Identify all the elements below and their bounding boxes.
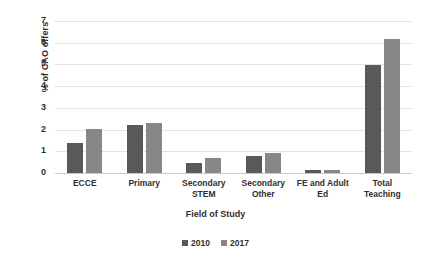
x-tick-label-line: Total (353, 178, 413, 189)
legend-entry-2017[interactable]: 2017 (221, 238, 249, 248)
chart-legend: 20102017 (0, 238, 431, 248)
x-tick-label-line: Other (234, 189, 294, 200)
x-tick-label-line: Secondary (174, 178, 234, 189)
plot-area (55, 21, 412, 173)
y-tick-label-6: 6 (28, 37, 46, 47)
bar-pair (353, 21, 413, 173)
bar-group (55, 21, 115, 173)
y-tick-label-3: 3 (28, 102, 46, 112)
legend-swatch-icon (182, 240, 188, 246)
bar-2017 (146, 123, 162, 173)
bar-group (293, 21, 353, 173)
y-tick-label-5: 5 (28, 58, 46, 68)
bar-pair (293, 21, 353, 173)
bar-group (353, 21, 413, 173)
x-tick-label-fe-and-adult-ed: FE and AdultEd (293, 178, 353, 200)
bar-group (234, 21, 294, 173)
x-tick-label-line: Ed (293, 189, 353, 200)
x-tick-label-secondary-other: SecondaryOther (234, 178, 294, 200)
bar-group (174, 21, 234, 173)
legend-entry-2010[interactable]: 2010 (182, 238, 210, 248)
x-tick-label-line: Teaching (353, 189, 413, 200)
bar-chart: % of CAO offers 01234567 ECCEPrimarySeco… (0, 0, 431, 279)
bar-2017 (205, 158, 221, 173)
bar-pair (55, 21, 115, 173)
bar-2010 (305, 170, 321, 173)
bar-2010 (186, 163, 202, 173)
x-tick-label-line: STEM (174, 189, 234, 200)
bar-2017 (324, 170, 340, 173)
x-tick-label-ecce: ECCE (55, 178, 115, 189)
bar-pair (234, 21, 294, 173)
bar-2017 (265, 153, 281, 173)
x-tick-label-line: Primary (115, 178, 175, 189)
bar-pair (115, 21, 175, 173)
legend-label: 2010 (191, 238, 210, 248)
x-tick-label-line: FE and Adult (293, 178, 353, 189)
bar-2017 (384, 39, 400, 173)
y-tick-label-7: 7 (28, 15, 46, 25)
bar-group (115, 21, 175, 173)
bar-2010 (246, 156, 262, 173)
y-tick-label-0: 0 (28, 167, 46, 177)
y-tick-label-4: 4 (28, 80, 46, 90)
bar-2010 (365, 65, 381, 173)
x-tick-label-line: ECCE (55, 178, 115, 189)
bar-2017 (86, 129, 102, 174)
x-tick-label-line: Secondary (234, 178, 294, 189)
bar-pair (174, 21, 234, 173)
y-tick-label-1: 1 (28, 145, 46, 155)
bar-2010 (67, 143, 83, 173)
x-axis-title: Field of Study (0, 209, 431, 219)
gridline-0 (55, 173, 412, 174)
bar-2010 (127, 125, 143, 173)
y-tick-label-2: 2 (28, 124, 46, 134)
legend-swatch-icon (221, 240, 227, 246)
x-tick-label-total-teaching: TotalTeaching (353, 178, 413, 200)
x-tick-label-primary: Primary (115, 178, 175, 189)
legend-label: 2017 (230, 238, 249, 248)
x-tick-label-secondary-stem: SecondarySTEM (174, 178, 234, 200)
